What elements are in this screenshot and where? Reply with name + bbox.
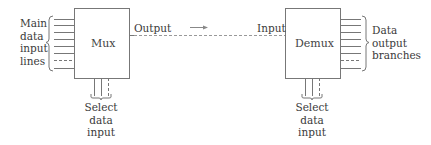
main-data-input-lines-label: Main data input lines bbox=[20, 17, 48, 67]
demux-select-lines bbox=[306, 78, 320, 96]
demux-label: Demux bbox=[295, 37, 334, 50]
label-line: branches bbox=[372, 49, 421, 62]
label-line: Data bbox=[372, 24, 421, 37]
mux-input-lines bbox=[54, 20, 74, 69]
demux-select-label: Select data input bbox=[295, 101, 329, 139]
demux-output-lines bbox=[341, 20, 361, 69]
label-line: data bbox=[20, 30, 48, 43]
label-line: Main bbox=[20, 17, 48, 30]
mux-select-lines bbox=[95, 78, 109, 96]
label-line: data bbox=[295, 114, 329, 127]
label-line: input bbox=[295, 126, 329, 139]
arrowhead-icon bbox=[203, 26, 208, 30]
input-label: Input bbox=[257, 22, 286, 35]
output-label: Output bbox=[134, 22, 171, 35]
right-brace bbox=[362, 16, 369, 71]
mux-label: Mux bbox=[91, 37, 116, 50]
label-line: output bbox=[372, 37, 421, 50]
label-line: Select bbox=[295, 101, 329, 114]
label-line: data bbox=[84, 114, 118, 127]
label-line: lines bbox=[20, 55, 48, 68]
data-output-branches-label: Data output branches bbox=[372, 24, 421, 62]
diagram-canvas bbox=[0, 0, 431, 145]
label-line: input bbox=[84, 126, 118, 139]
mux-select-label: Select data input bbox=[84, 101, 118, 139]
label-line: Select bbox=[84, 101, 118, 114]
label-line: input bbox=[20, 42, 48, 55]
